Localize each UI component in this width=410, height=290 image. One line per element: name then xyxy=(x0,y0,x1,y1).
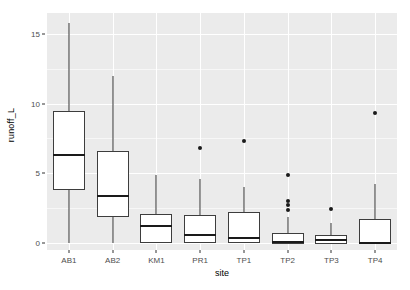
y-tick-label: 0 xyxy=(36,239,40,248)
x-axis-title: site xyxy=(47,268,397,278)
box-iqr xyxy=(53,111,85,190)
x-tick-mark xyxy=(287,250,288,253)
chart-root: runoff_L 051015 AB1AB2KM1PR1TP1TP2TP3TP4… xyxy=(0,0,410,290)
outlier-point xyxy=(242,139,246,143)
whisker-upper xyxy=(331,223,332,236)
median-line xyxy=(228,237,260,239)
whisker-lower xyxy=(112,217,113,243)
x-tick-label-tp1: TP1 xyxy=(237,256,252,265)
x-axis-ticks: AB1AB2KM1PR1TP1TP2TP3TP4 xyxy=(47,250,397,270)
boxplot-ab2 xyxy=(91,13,135,250)
y-axis-ticks: 051015 xyxy=(0,0,45,250)
whisker-upper xyxy=(200,179,201,215)
x-tick-label-pr1: PR1 xyxy=(192,256,208,265)
box-iqr xyxy=(97,151,129,217)
median-line xyxy=(272,241,304,243)
x-tick-label-tp4: TP4 xyxy=(368,256,383,265)
box-iqr xyxy=(359,219,391,243)
outlier-point xyxy=(329,207,333,211)
x-tick-mark xyxy=(243,250,244,253)
boxplot-ab1 xyxy=(47,13,91,250)
median-line xyxy=(140,225,172,227)
x-tick-label-ab2: AB2 xyxy=(105,256,120,265)
boxplot-tp1 xyxy=(222,13,266,250)
x-tick-label-km1: KM1 xyxy=(148,256,164,265)
x-tick-mark xyxy=(200,250,201,253)
boxplot-km1 xyxy=(135,13,179,250)
median-line xyxy=(97,195,129,197)
x-tick-mark xyxy=(68,250,69,253)
x-tick-label-ab1: AB1 xyxy=(61,256,76,265)
y-tick-label: 10 xyxy=(31,99,40,108)
outlier-point xyxy=(198,146,202,150)
box-iqr xyxy=(140,214,172,243)
boxplot-tp3 xyxy=(310,13,354,250)
outlier-point xyxy=(286,173,290,177)
whisker-upper xyxy=(112,76,113,151)
whisker-upper xyxy=(375,184,376,220)
plot-panel xyxy=(47,13,397,250)
whisker-upper xyxy=(287,217,288,234)
boxplot-tp4 xyxy=(353,13,397,250)
y-tick-label: 5 xyxy=(36,169,40,178)
x-tick-mark xyxy=(331,250,332,253)
outlier-point xyxy=(373,111,377,115)
median-line xyxy=(53,154,85,156)
median-line xyxy=(315,239,347,241)
whisker-upper xyxy=(156,175,157,213)
x-tick-label-tp3: TP3 xyxy=(324,256,339,265)
whisker-lower xyxy=(68,190,69,243)
x-tick-mark xyxy=(375,250,376,253)
x-tick-label-tp2: TP2 xyxy=(280,256,295,265)
y-tick-label: 15 xyxy=(31,29,40,38)
y-tick-mark xyxy=(42,173,45,174)
median-line xyxy=(184,234,216,236)
y-tick-mark xyxy=(42,33,45,34)
x-tick-mark xyxy=(112,250,113,253)
boxplot-pr1 xyxy=(178,13,222,250)
outlier-point xyxy=(286,208,290,212)
median-line xyxy=(359,242,391,244)
y-tick-mark xyxy=(42,243,45,244)
x-tick-mark xyxy=(156,250,157,253)
whisker-upper xyxy=(68,23,69,111)
box-iqr xyxy=(184,215,216,243)
boxplot-tp2 xyxy=(266,13,310,250)
whisker-upper xyxy=(243,187,244,212)
outlier-point xyxy=(286,203,290,207)
y-tick-mark xyxy=(42,103,45,104)
